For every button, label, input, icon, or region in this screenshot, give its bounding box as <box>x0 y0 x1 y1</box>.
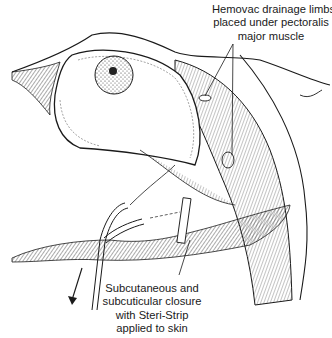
nipple <box>109 67 117 75</box>
hemovac-annotation: Hemovac drainage limbs placed under pect… <box>212 3 330 43</box>
closure-annotation: Subcutaneous and subcuticular closure wi… <box>92 282 212 336</box>
hemovac-line-1: Hemovac drainage limbs <box>212 3 330 16</box>
drain-arrow <box>72 268 82 300</box>
closure-line-1: Subcutaneous and <box>92 282 212 295</box>
hemovac-line-2: placed under pectoralis <box>212 16 330 29</box>
closure-line-3: with Steri-Strip <box>92 309 212 322</box>
closure-line-2: subcuticular closure <box>92 295 212 308</box>
closure-line-4: applied to skin <box>92 322 212 335</box>
hemovac-line-3: major muscle <box>212 30 330 43</box>
areola <box>95 56 133 94</box>
